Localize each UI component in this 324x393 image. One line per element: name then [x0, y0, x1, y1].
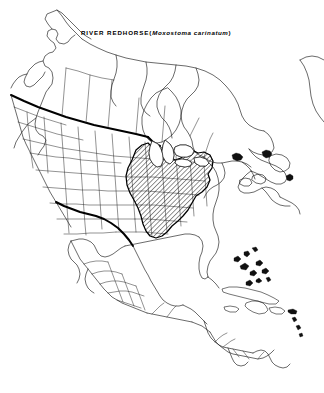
lesser-antilles-chain — [292, 317, 303, 337]
hudson-bay — [142, 88, 181, 143]
species-scientific-name: Moxostoma carinatum — [152, 29, 228, 36]
north-america-map — [0, 0, 324, 393]
distribution-map-figure: RIVER REDHORSE(Moxostoma carinatum) — [0, 0, 324, 393]
central-america-outline — [204, 321, 290, 368]
us-mexico-border — [56, 202, 133, 246]
atlantic-canada — [240, 154, 290, 186]
map-title: RIVER REDHORSE(Moxostoma carinatum) — [81, 29, 231, 37]
canada-province-boundaries — [62, 68, 213, 157]
species-common-name: RIVER REDHORSE — [81, 29, 149, 36]
greenland-edge — [300, 56, 324, 122]
title-close-paren: ) — [228, 29, 231, 36]
alaska-outline — [11, 10, 91, 155]
caribbean-islands — [208, 247, 303, 337]
canada-us-border — [11, 95, 160, 146]
bahamas-chain — [234, 247, 271, 286]
species-range-hatched — [120, 138, 220, 243]
mexico-outline — [71, 241, 210, 332]
